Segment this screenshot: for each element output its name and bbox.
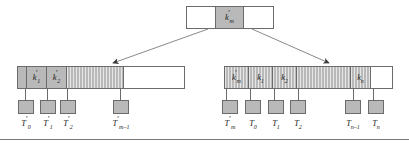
right-stem-4 [353,89,354,100]
right-cell-key-k2: k2 [273,67,297,88]
leaf-box-Tm1-prime [113,100,129,114]
btree-merge-diagram: k′m k′1 k′2 k′m k1 [0,0,409,145]
leaf-box-Tn1 [345,100,361,114]
left-cell-key-k2: k′2 [47,67,67,88]
right-stem-2 [274,89,275,100]
right-cell-key-km: k′m [225,67,249,88]
left-cell-key-k1: k′1 [27,67,47,88]
right-key-1-label: k1 [257,73,263,82]
right-stem-5 [373,89,374,100]
right-key-m-label: k′m [232,73,241,82]
leaf-box-Tn [368,100,384,114]
left-cell-pointer-0 [18,67,27,88]
right-cell-empty [371,67,392,88]
root-to-right-child-line [252,29,329,63]
left-internal-node: k′1 k′2 [17,66,185,89]
leaf-box-T2 [290,100,306,114]
leaf-box-T0-prime [18,100,34,114]
right-internal-node: k′m k1 k2 kn [224,66,393,89]
right-cell-key-kn: kn [351,67,371,88]
right-key-n-label: kn [357,73,363,82]
root-cell-0 [187,7,216,28]
right-stem-3 [298,89,299,100]
leaf-box-T2-prime [60,100,76,114]
leaf-box-T0 [245,100,261,114]
root-cell-2 [244,7,273,28]
leaf-label-Tn: Tn [361,119,391,128]
leaf-box-T1-prime [40,100,56,114]
right-stem-0 [226,89,227,100]
leaf-label-T2-prime: T′2 [53,119,83,128]
leaf-label-T2: T2 [283,119,313,128]
root-key-label: k′m [225,13,234,22]
leaf-label-Tm1-prime: T′m–1 [106,119,136,128]
left-key-1-label: k′1 [33,73,41,82]
root-node: k′m [186,6,274,29]
root-to-left-child-line [113,29,208,63]
left-cell-empty [124,67,184,88]
left-stem-0 [25,89,26,100]
right-cell-key-k1: k1 [249,67,273,88]
bottom-divider [0,139,409,140]
right-stem-1 [250,89,251,100]
left-stem-1 [47,89,48,100]
right-cell-ellipsis [297,67,351,88]
left-key-2-label: k′2 [53,73,61,82]
root-cell-key-km: k′m [216,7,245,28]
left-stem-3 [120,89,121,100]
right-key-2-label: k2 [281,73,287,82]
left-stem-2 [67,89,68,100]
leaf-box-Tm-prime [222,100,238,114]
leaf-box-T1 [268,100,284,114]
left-cell-ellipsis [67,67,124,88]
